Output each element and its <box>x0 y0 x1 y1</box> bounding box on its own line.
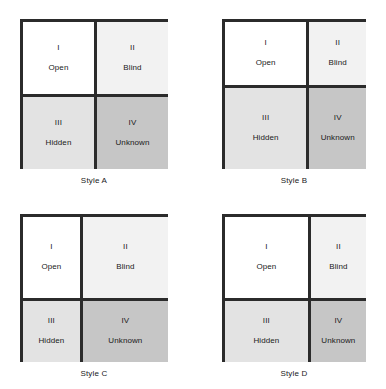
quadrant-numeral: III <box>55 119 62 128</box>
quadrant-open-c: I Open <box>23 217 80 298</box>
johari-window-figure: I Open II Blind III Hidden IV Unknown St… <box>0 0 386 389</box>
quadrant-numeral: III <box>263 317 270 326</box>
johari-window-grid-a: I Open II Blind III Hidden IV Unknown <box>20 19 168 169</box>
johari-window-grid-b: I Open II Blind III Hidden IV Unknown <box>222 19 366 169</box>
quadrant-numeral: I <box>265 243 267 252</box>
quadrant-unknown-a: IV Unknown <box>97 97 168 169</box>
quadrant-term: Open <box>41 263 61 272</box>
quadrant-numeral: IV <box>334 317 342 326</box>
quadrant-hidden-a: III Hidden <box>23 97 94 169</box>
quadrant-term: Hidden <box>46 139 72 148</box>
panel-style-b: I Open II Blind III Hidden IV Unknown St… <box>222 19 366 185</box>
johari-window-grid-d: I Open II Blind III Hidden IV Unknown <box>222 214 366 362</box>
quadrant-unknown-c: IV Unknown <box>83 301 168 362</box>
quadrant-term: Blind <box>329 59 347 68</box>
quadrant-term: Open <box>256 263 276 272</box>
quadrant-numeral: III <box>262 114 269 123</box>
panel-style-a: I Open II Blind III Hidden IV Unknown St… <box>20 19 168 185</box>
quadrant-term: Open <box>256 59 276 68</box>
quadrant-unknown-b: IV Unknown <box>309 88 366 169</box>
quadrant-numeral: III <box>48 317 55 326</box>
quadrant-open-d: I Open <box>225 217 308 298</box>
quadrant-blind-a: II Blind <box>97 22 168 94</box>
quadrant-term: Blind <box>116 263 134 272</box>
quadrant-hidden-b: III Hidden <box>225 88 306 169</box>
quadrant-numeral: IV <box>334 114 342 123</box>
quadrant-term: Hidden <box>253 134 279 143</box>
quadrant-term: Hidden <box>253 337 279 346</box>
quadrant-numeral: II <box>123 243 128 252</box>
quadrant-hidden-d: III Hidden <box>225 301 308 362</box>
quadrant-term: Unknown <box>321 134 355 143</box>
panel-style-d: I Open II Blind III Hidden IV Unknown St… <box>222 214 366 378</box>
quadrant-numeral: IV <box>129 119 137 128</box>
quadrant-open-b: I Open <box>225 22 306 85</box>
quadrant-numeral: I <box>57 44 59 53</box>
quadrant-term: Unknown <box>115 139 149 148</box>
quadrant-term: Blind <box>329 263 347 272</box>
quadrant-term: Open <box>49 64 69 73</box>
quadrant-blind-d: II Blind <box>311 217 366 298</box>
panel-caption-b: Style B <box>281 176 308 185</box>
quadrant-open-a: I Open <box>23 22 94 94</box>
panel-caption-d: Style D <box>280 369 307 378</box>
quadrant-numeral: IV <box>121 317 129 326</box>
quadrant-numeral: I <box>50 243 52 252</box>
quadrant-term: Hidden <box>38 337 64 346</box>
quadrant-term: Unknown <box>321 337 355 346</box>
quadrant-numeral: II <box>130 44 135 53</box>
quadrant-term: Unknown <box>108 337 142 346</box>
quadrant-term: Blind <box>123 64 141 73</box>
quadrant-blind-c: II Blind <box>83 217 168 298</box>
panel-caption-a: Style A <box>81 176 107 185</box>
quadrant-unknown-d: IV Unknown <box>311 301 366 362</box>
quadrant-blind-b: II Blind <box>309 22 366 85</box>
panel-caption-c: Style C <box>80 369 107 378</box>
quadrant-hidden-c: III Hidden <box>23 301 80 362</box>
quadrant-numeral: II <box>336 243 341 252</box>
johari-window-grid-c: I Open II Blind III Hidden IV Unknown <box>20 214 168 362</box>
panel-style-c: I Open II Blind III Hidden IV Unknown St… <box>20 214 168 378</box>
quadrant-numeral: I <box>264 39 266 48</box>
quadrant-numeral: II <box>335 39 340 48</box>
